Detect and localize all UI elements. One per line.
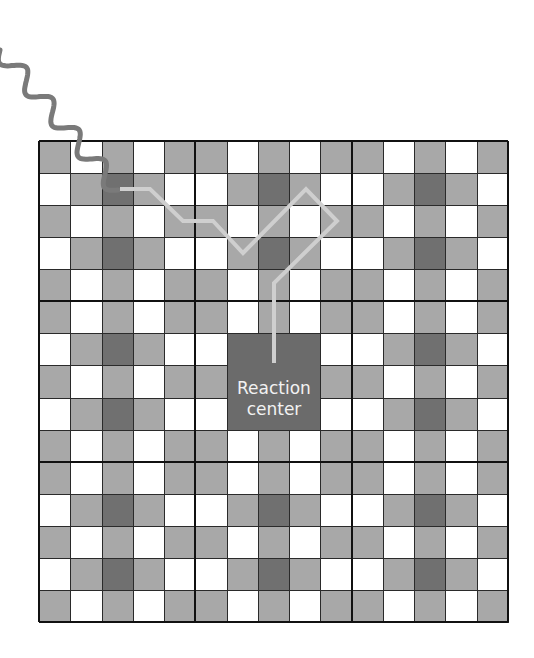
diagram-canvas: Reactioncenter bbox=[0, 0, 534, 658]
photon-wave-icon bbox=[0, 50, 118, 190]
overlay-layer bbox=[0, 0, 534, 658]
energy-transfer-path bbox=[120, 189, 337, 363]
